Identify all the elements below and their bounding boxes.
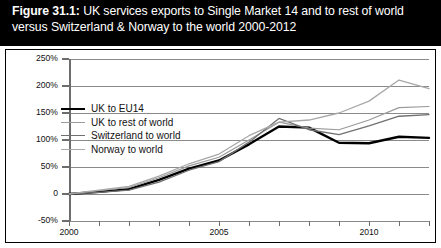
legend-swatch-icon xyxy=(61,108,85,110)
legend-item: Switzerland to world xyxy=(61,129,211,143)
legend-label: Switzerland to world xyxy=(91,130,180,141)
legend-label: UK to rest of world xyxy=(91,117,173,128)
figure-title-banner: Figure 31.1: UK services exports to Sing… xyxy=(0,0,441,46)
figure-number: Figure 31.1: xyxy=(12,4,80,18)
legend-label: Norway to world xyxy=(91,144,163,155)
figure-title: Figure 31.1: UK services exports to Sing… xyxy=(12,4,431,35)
legend-item: UK to EU14 xyxy=(61,102,211,116)
plot-area: 250%200%150%100%50%0-50% 200020052010 UK… xyxy=(6,50,437,244)
legend-swatch-icon xyxy=(61,122,85,123)
figure-container: Figure 31.1: UK services exports to Sing… xyxy=(0,0,441,248)
legend-swatch-icon xyxy=(61,149,85,150)
legend-swatch-icon xyxy=(61,135,85,136)
legend-item: Norway to world xyxy=(61,143,211,157)
legend-item: UK to rest of world xyxy=(61,116,211,130)
chart-legend: UK to EU14UK to rest of worldSwitzerland… xyxy=(61,102,211,156)
chart-frame: 250%200%150%100%50%0-50% 200020052010 UK… xyxy=(5,49,436,243)
legend-label: UK to EU14 xyxy=(91,103,144,114)
